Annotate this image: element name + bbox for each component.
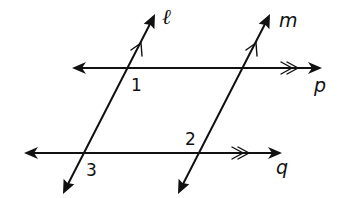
angle-label-1: 1 — [131, 75, 142, 95]
line-q — [24, 147, 282, 159]
label-line-q: q — [276, 156, 288, 178]
parallel-lines-diagram: ℓ m p q 1 2 3 — [0, 0, 342, 198]
label-line-l: ℓ — [162, 5, 171, 29]
line-p — [72, 62, 322, 74]
diagram-canvas: ℓ m p q 1 2 3 — [0, 0, 342, 198]
label-line-p: p — [313, 74, 326, 96]
label-line-m: m — [279, 9, 298, 31]
line-l — [63, 14, 155, 194]
line-m — [178, 14, 270, 194]
angle-label-2: 2 — [185, 129, 196, 149]
angle-label-3: 3 — [86, 160, 97, 180]
